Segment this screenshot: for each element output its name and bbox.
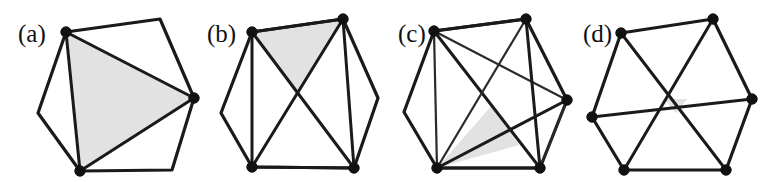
marked-vertex-dot (247, 27, 257, 37)
marked-vertex-dot (247, 162, 257, 172)
panel-a: (a) (18, 19, 199, 176)
marked-vertex-dot (708, 14, 718, 24)
marked-vertex-dot (521, 14, 531, 24)
panel-label-c: (c) (398, 20, 426, 48)
panel-b: (b) (207, 14, 378, 173)
marked-vertex-dot (535, 163, 545, 173)
panel-c: (c) (398, 14, 572, 173)
chord (434, 31, 567, 100)
panel-label-d: (d) (583, 20, 612, 48)
marked-vertex-dot (349, 163, 359, 173)
marked-vertex-dot (75, 166, 85, 176)
figure-canvas: (a)(b)(c)(d) (0, 0, 780, 182)
chord (624, 19, 713, 170)
chord (540, 100, 567, 168)
marked-vertex-dot (429, 26, 439, 36)
marked-vertex-dot (587, 112, 597, 122)
marked-vertex-dot (616, 28, 626, 38)
marked-vertex-dot (747, 94, 757, 104)
hexagon-outline (592, 19, 752, 170)
marked-vertex-dot (721, 165, 731, 175)
shaded-triangle (437, 105, 519, 168)
marked-vertex-dot (61, 27, 71, 37)
marked-vertex-dot (432, 163, 442, 173)
panel-label-a: (a) (18, 20, 46, 48)
panel-label-b: (b) (207, 20, 236, 48)
panel-d: (d) (583, 14, 757, 175)
marked-vertex-dot (338, 14, 348, 24)
hexagon-triangulation-figure: (a)(b)(c)(d) (0, 0, 780, 182)
chord (252, 167, 354, 168)
chord (434, 31, 437, 168)
panels-group: (a)(b)(c)(d) (18, 14, 757, 176)
marked-vertex-dot (562, 95, 572, 105)
marked-vertex-dot (189, 93, 199, 103)
marked-vertex-dot (619, 165, 629, 175)
chord (434, 19, 526, 31)
